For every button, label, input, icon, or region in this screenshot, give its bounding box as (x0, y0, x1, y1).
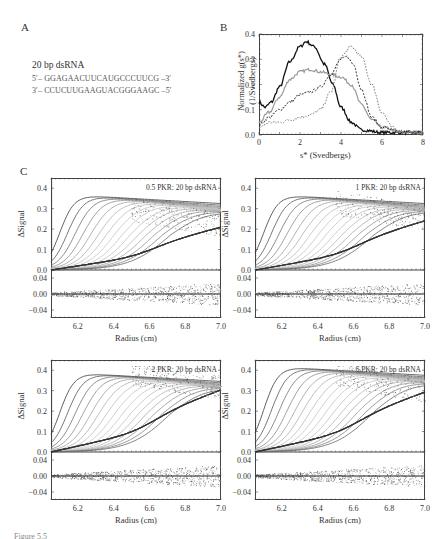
svg-text:ΔSignal: ΔSignal (220, 210, 230, 238)
dsrna-strand-top: 5′– GGAGAACUUCAUGCCCUUCG –3′ (32, 74, 171, 83)
svg-text:6.2: 6.2 (277, 322, 287, 331)
svg-text:0.00: 0.00 (33, 290, 47, 299)
svg-text:0.3: 0.3 (241, 387, 251, 396)
svg-text:2: 2 (298, 138, 302, 147)
svg-text:0.1: 0.1 (241, 246, 251, 255)
svg-text:0.00: 0.00 (237, 290, 251, 299)
svg-text:7.0: 7.0 (420, 504, 430, 513)
svg-text:−0.04: −0.04 (232, 488, 251, 497)
svg-text:0.4: 0.4 (241, 366, 251, 375)
svg-text:Radius (cm): Radius (cm) (115, 515, 157, 525)
svg-text:6.2: 6.2 (277, 504, 287, 513)
svg-text:0.04: 0.04 (237, 456, 251, 465)
b-y-axis-label-2: (1/Svedbergs) (247, 26, 257, 136)
svg-text:1 PKR: 20 bp dsRNA: 1 PKR: 20 bp dsRNA (356, 183, 422, 192)
svg-text:ΔSignal: ΔSignal (16, 210, 26, 238)
svg-text:ΔSignal: ΔSignal (16, 392, 26, 420)
velocity-chart-6-pkr: 6.26.46.66.87.00.00.10.20.30.4−0.040.000… (255, 360, 425, 508)
svg-text:6.6: 6.6 (348, 322, 358, 331)
svg-text:6.6: 6.6 (144, 322, 154, 331)
svg-text:−0.04: −0.04 (232, 306, 251, 315)
dsrna-strand-bottom: 3′– CCUCUUGAAGUACGGGAAGC –5′ (32, 86, 172, 95)
svg-text:2 PKR: 20 bp dsRNA: 2 PKR: 20 bp dsRNA (152, 365, 218, 374)
svg-text:8: 8 (421, 138, 425, 147)
svg-text:0.5 PKR: 20 bp dsRNA: 0.5 PKR: 20 bp dsRNA (146, 183, 218, 192)
svg-text:7.0: 7.0 (420, 322, 430, 331)
svg-text:0.4: 0.4 (37, 184, 47, 193)
svg-text:Radius (cm): Radius (cm) (115, 333, 157, 343)
svg-text:0.4: 0.4 (241, 184, 251, 193)
svg-text:0: 0 (257, 138, 261, 147)
svg-text:0.2: 0.2 (37, 407, 47, 416)
svg-text:Radius (cm): Radius (cm) (319, 515, 361, 525)
svg-text:6.4: 6.4 (313, 322, 323, 331)
svg-text:6.6: 6.6 (348, 504, 358, 513)
svg-text:6.2: 6.2 (73, 504, 83, 513)
velocity-chart-2-pkr: 6.26.46.66.87.00.00.10.20.30.4−0.040.000… (51, 360, 221, 508)
chart-b-svg: 024680.00.10.20.30.4 (259, 34, 423, 135)
svg-text:0.3: 0.3 (37, 387, 47, 396)
svg-text:6.4: 6.4 (109, 322, 119, 331)
svg-text:6.8: 6.8 (384, 504, 394, 513)
svg-text:0.1: 0.1 (37, 428, 47, 437)
velocity-chart-0-5-pkr: 6.26.46.66.87.00.00.10.20.30.4−0.040.000… (51, 178, 221, 326)
figure-caption: Figure 5.5 (14, 532, 47, 539)
panel-b-letter: B (220, 21, 227, 33)
b-x-axis-label: s* (Svedbergs) (300, 150, 351, 160)
svg-text:6.4: 6.4 (313, 504, 323, 513)
svg-text:0.04: 0.04 (33, 274, 47, 283)
svg-text:Radius (cm): Radius (cm) (319, 333, 361, 343)
svg-text:−0.04: −0.04 (28, 306, 47, 315)
svg-text:0.4: 0.4 (37, 366, 47, 375)
sedimentation-distribution-chart: 024680.00.10.20.30.4 (259, 34, 423, 135)
svg-text:6: 6 (380, 138, 384, 147)
svg-text:0.04: 0.04 (33, 456, 47, 465)
svg-text:6.8: 6.8 (180, 504, 190, 513)
svg-text:6.6: 6.6 (144, 504, 154, 513)
svg-text:ΔSignal: ΔSignal (220, 392, 230, 420)
series-solid (259, 41, 423, 134)
panel-a-letter: A (21, 21, 29, 33)
svg-text:0.2: 0.2 (37, 225, 47, 234)
svg-text:0.00: 0.00 (237, 472, 251, 481)
svg-text:0.3: 0.3 (241, 205, 251, 214)
svg-text:0.2: 0.2 (241, 407, 251, 416)
svg-text:0.2: 0.2 (241, 225, 251, 234)
svg-text:0.3: 0.3 (37, 205, 47, 214)
svg-text:0.1: 0.1 (37, 246, 47, 255)
svg-text:4: 4 (339, 138, 343, 147)
svg-text:0.00: 0.00 (33, 472, 47, 481)
b-y-axis-label-1: Normalized g(s*) (236, 26, 246, 136)
svg-text:7.0: 7.0 (216, 504, 226, 513)
svg-text:0.1: 0.1 (241, 428, 251, 437)
svg-text:6.8: 6.8 (180, 322, 190, 331)
svg-text:7.0: 7.0 (216, 322, 226, 331)
panel-c-letter: C (20, 165, 27, 177)
svg-text:6.8: 6.8 (384, 322, 394, 331)
dsrna-title: 20 bp dsRNA (32, 60, 84, 70)
velocity-chart-1-pkr: 6.26.46.66.87.00.00.10.20.30.4−0.040.000… (255, 178, 425, 326)
svg-text:6.2: 6.2 (73, 322, 83, 331)
svg-text:−0.04: −0.04 (28, 488, 47, 497)
svg-text:6.4: 6.4 (109, 504, 119, 513)
svg-text:0.04: 0.04 (237, 274, 251, 283)
